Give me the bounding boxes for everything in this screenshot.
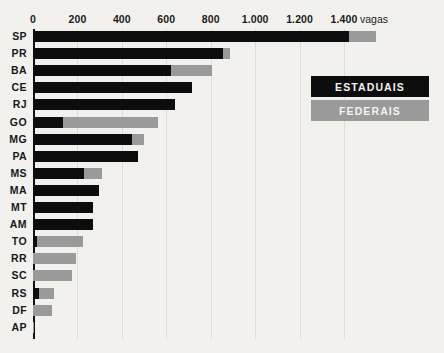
- y-axis-label-sc: SC: [0, 270, 27, 281]
- bar-segment-pr-estaduais: [33, 48, 223, 59]
- bar-row: [33, 202, 437, 213]
- bar-segment-rs-federais: [39, 288, 54, 299]
- bar-row: [33, 305, 437, 316]
- x-axis-unit-label: vagas: [360, 13, 388, 25]
- legend: ESTADUAIS FEDERAIS: [311, 76, 429, 121]
- bar-segment-mg-federais: [132, 134, 145, 145]
- bar-segment-sp-federais: [349, 31, 376, 42]
- x-axis-labels: 02004006008001.0001.2001.400vagas: [0, 13, 444, 27]
- bar-segment-to-federais: [37, 236, 84, 247]
- bar-row: [33, 151, 437, 162]
- bar-row: [33, 65, 437, 76]
- bar-segment-go-estaduais: [33, 117, 63, 128]
- bar-segment-df-federais: [33, 305, 52, 316]
- bar-row: [33, 168, 437, 179]
- y-axis-label-mt: MT: [0, 202, 27, 213]
- x-axis-tick-1.200: 1.200: [286, 13, 313, 25]
- bar-segment-ms-federais: [84, 168, 102, 179]
- bar-segment-ma-estaduais: [33, 185, 99, 196]
- bar-row: [33, 322, 437, 333]
- x-axis-tick-1.000: 1.000: [242, 13, 269, 25]
- bar-segment-pa-estaduais: [33, 151, 138, 162]
- legend-item-federais[interactable]: FEDERAIS: [311, 100, 429, 121]
- bar-segment-ba-estaduais: [33, 65, 171, 76]
- bar-segment-pr-federais: [223, 48, 230, 59]
- bar-chart: 02004006008001.0001.2001.400vagas SPPRBA…: [0, 0, 444, 353]
- y-axis-label-sp: SP: [0, 31, 27, 42]
- bar-segment-am-estaduais: [33, 219, 93, 230]
- x-axis-tick-0: 0: [30, 13, 36, 25]
- y-axis-label-df: DF: [0, 305, 27, 316]
- bar-segment-mt-estaduais: [33, 202, 93, 213]
- bar-row: [33, 219, 437, 230]
- y-axis-label-ap: AP: [0, 322, 27, 333]
- y-axis-label-mg: MG: [0, 134, 27, 145]
- y-axis-category-labels: SPPRBACERJGOMGPAMSMAMTAMTORRSCRSDFAP: [0, 29, 29, 339]
- bar-segment-ba-federais: [171, 65, 212, 76]
- bar-segment-ce-estaduais: [33, 82, 192, 93]
- bar-segment-rj-estaduais: [33, 99, 175, 110]
- y-axis-label-rs: RS: [0, 288, 27, 299]
- y-axis-label-rj: RJ: [0, 99, 27, 110]
- x-axis-tick-400: 400: [113, 13, 131, 25]
- bar-segment-ms-estaduais: [33, 168, 84, 179]
- bar-row: [33, 185, 437, 196]
- bar-row: [33, 134, 437, 145]
- y-axis-label-ba: BA: [0, 65, 27, 76]
- y-axis-label-am: AM: [0, 219, 27, 230]
- y-axis-label-go: GO: [0, 117, 27, 128]
- y-axis-label-pr: PR: [0, 48, 27, 59]
- x-axis-tick-800: 800: [202, 13, 220, 25]
- bar-segment-sc-federais: [33, 270, 72, 281]
- y-axis-label-ms: MS: [0, 168, 27, 179]
- bar-segment-sp-estaduais: [33, 31, 349, 42]
- y-axis-label-ce: CE: [0, 82, 27, 93]
- bar-segment-ap-federais: [33, 322, 34, 333]
- x-axis-tick-600: 600: [157, 13, 175, 25]
- y-axis-label-ma: MA: [0, 185, 27, 196]
- x-axis-tick-1.400: 1.400: [331, 13, 358, 25]
- bar-row: [33, 31, 437, 42]
- bar-row: [33, 236, 437, 247]
- bar-segment-rr-federais: [33, 253, 76, 264]
- bar-row: [33, 48, 437, 59]
- bar-segment-go-federais: [63, 117, 158, 128]
- bar-row: [33, 288, 437, 299]
- bar-row: [33, 253, 437, 264]
- bar-segment-mg-estaduais: [33, 134, 132, 145]
- bar-row: [33, 270, 437, 281]
- y-axis-label-rr: RR: [0, 253, 27, 264]
- y-axis-label-pa: PA: [0, 151, 27, 162]
- y-axis-label-to: TO: [0, 236, 27, 247]
- x-axis-tick-200: 200: [69, 13, 87, 25]
- legend-item-estaduais[interactable]: ESTADUAIS: [311, 76, 429, 97]
